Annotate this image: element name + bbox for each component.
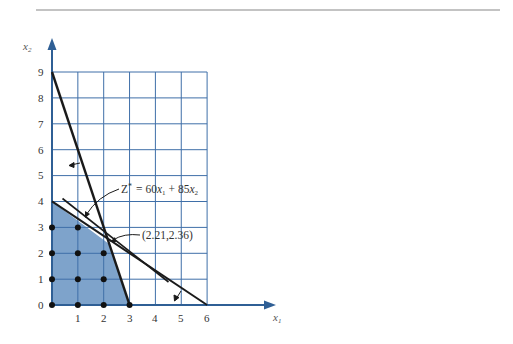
svg-text:2: 2 [101, 312, 107, 324]
constraint-2-direction-arrow-icon [174, 291, 181, 301]
svg-text:2: 2 [38, 247, 44, 259]
x-axis-arrow-icon [264, 301, 276, 310]
y-axis-arrow-icon [48, 38, 57, 50]
svg-text:9: 9 [38, 66, 44, 78]
svg-text:4: 4 [152, 312, 158, 324]
y-tick-labels: 0 1 2 3 4 5 6 7 8 9 [38, 66, 44, 311]
svg-text:3: 3 [127, 312, 133, 324]
svg-text:1: 1 [38, 273, 44, 285]
svg-text:3: 3 [38, 221, 44, 233]
svg-text:6: 6 [38, 144, 44, 156]
optimum-leader-line [113, 235, 140, 240]
lp-graph: x2 x1 0 1 2 3 4 5 6 7 8 9 1 2 3 4 5 6 [0, 0, 513, 344]
svg-text:5: 5 [178, 312, 184, 324]
svg-text:8: 8 [38, 92, 44, 104]
svg-text:7: 7 [38, 118, 44, 130]
x-axis-label: x1 [272, 311, 281, 325]
svg-text:5: 5 [38, 169, 44, 181]
svg-text:4: 4 [38, 195, 44, 207]
objective-label: Z*= 60x1+ 85x2 [121, 182, 199, 197]
svg-text:6: 6 [204, 312, 210, 324]
svg-text:1: 1 [75, 312, 81, 324]
x-tick-labels: 1 2 3 4 5 6 [75, 312, 210, 324]
svg-text:0: 0 [38, 299, 44, 311]
optimum-label: (2.21,2.36) [142, 229, 193, 242]
y-axis-label: x2 [22, 40, 32, 54]
